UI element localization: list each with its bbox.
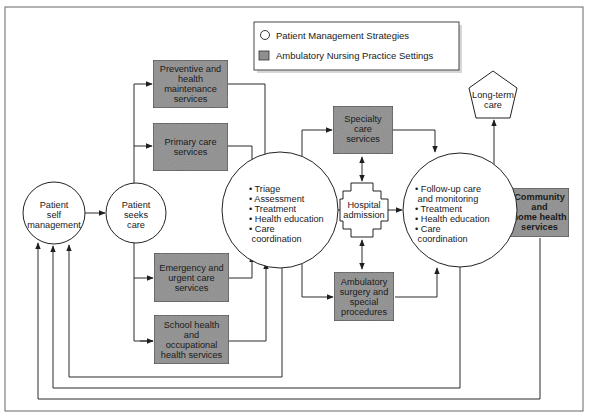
svg-text:Hospitaladmission: Hospitaladmission (343, 200, 384, 220)
setting-specialty: Specialtycareservices (333, 106, 393, 154)
strategy-self-management: Patientselfmanagement (23, 182, 85, 244)
ambulatory-care-flow-diagram: Patient Management Strategies Ambulatory… (0, 0, 589, 418)
strategy-followup: • Follow-up care and monitoring• Treatme… (403, 153, 517, 267)
long-term-care: Long-termcare (469, 71, 517, 118)
svg-text:School healthandoccupationalhe: School healthandoccupationalhealth servi… (161, 320, 223, 360)
setting-community: Communityandhome healthservices (510, 188, 569, 237)
setting-preventive: Preventive andhealthmaintenanceservices (153, 60, 228, 108)
hospital-admission: Hospitaladmission (340, 183, 388, 237)
strategy-triage: • Triage• Assessment• Treatment• Health … (222, 152, 338, 268)
setting-ambulatory-surgery: Ambulatorysurgery andspecialprocedures (334, 272, 394, 321)
legend-label-settings: Ambulatory Nursing Practice Settings (276, 50, 434, 61)
legend-label-strategies: Patient Management Strategies (276, 30, 409, 41)
setting-emergency: Emergency andurgent careservices (154, 253, 229, 302)
setting-school-health: School healthandoccupationalhealth servi… (154, 315, 229, 364)
strategy-seeks-care: Patientseekscare (106, 183, 166, 243)
legend-circle-icon (261, 31, 270, 40)
legend: Patient Management Strategies Ambulatory… (254, 22, 462, 73)
legend-gray-box-icon (259, 51, 269, 60)
setting-primary-care: Primary careservices (153, 123, 228, 171)
